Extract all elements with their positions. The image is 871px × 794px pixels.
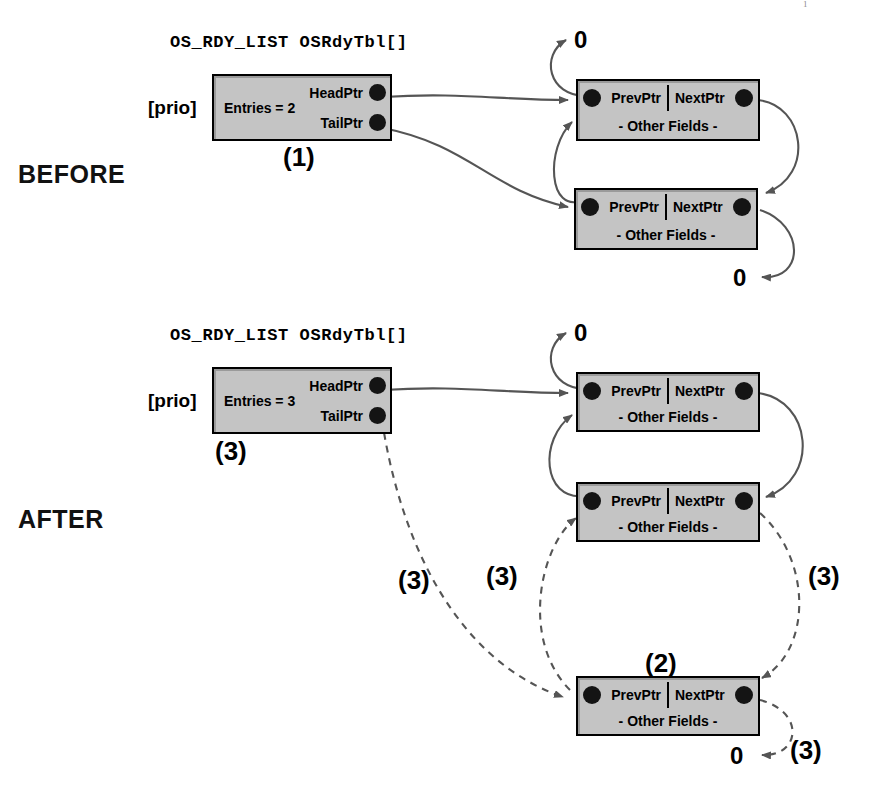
after-null-bottom: 0 <box>730 742 743 770</box>
before-headptr-dot-icon <box>369 84 386 101</box>
before-null-bottom: 0 <box>733 264 746 292</box>
before-node-2-field-divider <box>665 194 667 220</box>
before-node-2-nextptr-dot-icon <box>733 198 751 216</box>
before-node-1-other-fields: - Other Fields - <box>578 118 758 134</box>
after-step-label-tail-link: (3) <box>398 565 430 596</box>
before-node-1-nextptr-label: NextPtr <box>675 90 725 106</box>
after-node-1: PrevPtr NextPtr - Other Fields - <box>576 372 760 432</box>
before-headptr-wire <box>383 95 568 100</box>
before-tailptr-row: TailPtr <box>320 114 386 131</box>
before-node2-next-null-wire <box>760 210 794 277</box>
before-node1-next-wire <box>758 100 798 193</box>
before-prio-label: [prio] <box>148 97 197 119</box>
before-node-1-field-divider <box>667 85 669 111</box>
before-node-1-nextptr-dot-icon <box>735 89 753 107</box>
after-headptr-wire <box>383 388 568 393</box>
before-entries-value: Entries = 2 <box>224 100 295 116</box>
after-node-1-other-fields: - Other Fields - <box>578 409 758 425</box>
before-headptr-label: HeadPtr <box>309 85 363 101</box>
after-newnode-prev-wire <box>540 518 576 690</box>
before-rdy-list-box: Entries = 2 HeadPtr TailPtr <box>212 74 392 141</box>
after-node-2-fields: PrevPtr NextPtr <box>611 488 725 514</box>
after-tailptr-label: TailPtr <box>320 408 363 424</box>
before-node-1-prevptr-label: PrevPtr <box>611 90 661 106</box>
before-node-1-ptr-row: PrevPtr NextPtr <box>578 81 758 115</box>
after-node-1-prevptr-dot-icon <box>583 382 601 400</box>
after-node-1-prevptr-label: PrevPtr <box>611 383 661 399</box>
after-node-2-other-fields: - Other Fields - <box>578 519 758 535</box>
after-step-label-null-link: (3) <box>790 735 822 766</box>
after-node-2-nextptr-dot-icon <box>735 492 753 510</box>
before-node-2-fields: PrevPtr NextPtr <box>609 194 723 220</box>
after-null-top: 0 <box>574 319 587 347</box>
after-node-3-prevptr-label: PrevPtr <box>611 687 661 703</box>
after-node-2: PrevPtr NextPtr - Other Fields - <box>576 482 760 542</box>
after-node-1-fields: PrevPtr NextPtr <box>611 378 725 404</box>
before-node-1-prevptr-dot-icon <box>583 89 601 107</box>
diagram-canvas: 1 BEFORE OS_RDY_LIST OSRdyTbl[] [prio] E… <box>0 0 871 794</box>
after-prio-label: [prio] <box>148 390 197 412</box>
after-step-label-prev-link: (3) <box>486 561 518 592</box>
after-step-label: (3) <box>215 436 247 467</box>
after-node-2-prevptr-label: PrevPtr <box>611 493 661 509</box>
after-node-3-fields: PrevPtr NextPtr <box>611 682 725 708</box>
after-node-3-prevptr-dot-icon <box>583 686 601 704</box>
after-headptr-dot-icon <box>369 377 386 394</box>
before-tailptr-dot-icon <box>369 114 386 131</box>
after-tailptr-row: TailPtr <box>320 407 386 424</box>
before-headptr-row: HeadPtr <box>309 84 386 101</box>
after-node-1-nextptr-label: NextPtr <box>675 383 725 399</box>
after-node-1-field-divider <box>667 378 669 404</box>
after-node-3-other-fields: - Other Fields - <box>578 713 758 729</box>
before-tailptr-wire <box>383 128 568 207</box>
after-node-2-ptr-row: PrevPtr NextPtr <box>578 484 758 518</box>
after-node-2-nextptr-label: NextPtr <box>675 493 725 509</box>
after-step-label-new-node: (2) <box>645 648 677 679</box>
before-tailptr-label: TailPtr <box>320 115 363 131</box>
phase-label-before: BEFORE <box>18 160 125 189</box>
before-step-label: (1) <box>283 142 315 173</box>
after-struct-title: OS_RDY_LIST OSRdyTbl[] <box>170 326 408 345</box>
after-node-3: PrevPtr NextPtr - Other Fields - <box>576 676 760 736</box>
before-null-top: 0 <box>574 26 587 54</box>
before-node-2-other-fields: - Other Fields - <box>576 227 756 243</box>
phase-label-after: AFTER <box>18 505 104 534</box>
after-node2-next-newnode-wire <box>760 513 799 678</box>
before-node-2-prevptr-dot-icon <box>581 198 599 216</box>
after-tailptr-dot-icon <box>369 407 386 424</box>
before-node-2: PrevPtr NextPtr - Other Fields - <box>574 188 758 250</box>
after-node-3-nextptr-dot-icon <box>735 686 753 704</box>
before-node-1: PrevPtr NextPtr - Other Fields - <box>576 79 760 141</box>
after-headptr-label: HeadPtr <box>309 378 363 394</box>
after-tailptr-newnode-wire <box>382 420 563 697</box>
after-entries-value: Entries = 3 <box>224 393 295 409</box>
before-struct-title: OS_RDY_LIST OSRdyTbl[] <box>170 33 408 52</box>
after-node-1-ptr-row: PrevPtr NextPtr <box>578 374 758 408</box>
after-node-1-nextptr-dot-icon <box>735 382 753 400</box>
before-node-2-nextptr-label: NextPtr <box>673 199 723 215</box>
after-step-label-next-link: (3) <box>808 561 840 592</box>
after-node-3-ptr-row: PrevPtr NextPtr <box>578 678 758 712</box>
after-node-2-field-divider <box>667 488 669 514</box>
after-node-2-prevptr-dot-icon <box>583 492 601 510</box>
before-node-2-ptr-row: PrevPtr NextPtr <box>576 190 756 224</box>
before-node-1-fields: PrevPtr NextPtr <box>611 85 725 111</box>
after-node-3-nextptr-label: NextPtr <box>675 687 725 703</box>
scan-artifact: 1 <box>803 0 808 9</box>
before-node-2-prevptr-label: PrevPtr <box>609 199 659 215</box>
after-node-3-field-divider <box>667 682 669 708</box>
after-node1-next-wire <box>758 393 803 497</box>
after-headptr-row: HeadPtr <box>309 377 386 394</box>
after-rdy-list-box: Entries = 3 HeadPtr TailPtr <box>212 367 392 434</box>
after-newnode-next-null-wire <box>760 700 793 755</box>
